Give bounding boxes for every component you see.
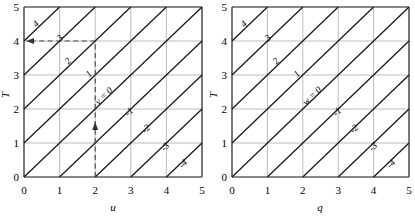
x-axis-title: u <box>110 201 116 213</box>
y-tick-3: 3 <box>14 69 20 81</box>
x-tick-5: 5 <box>406 184 412 196</box>
y-tick-1: 1 <box>14 137 20 149</box>
x-axis-title: q <box>317 201 323 213</box>
x-tick-3: 3 <box>128 184 134 196</box>
left-arrow-icon <box>26 38 34 44</box>
char-label-m4: -4 <box>385 157 398 170</box>
x-tick-2: 2 <box>300 184 306 196</box>
y-axis-right: 5 4 3 2 1 0 T <box>207 1 228 183</box>
char-label-v0: v = 0 <box>93 85 114 106</box>
x-tick-0: 0 <box>21 184 27 196</box>
x-tick-4: 4 <box>371 184 377 196</box>
y-tick-5: 5 <box>222 1 228 13</box>
char-label-m3: -3 <box>367 140 380 153</box>
char-label-2: 2 <box>271 55 282 66</box>
y-tick-2: 2 <box>222 103 228 115</box>
plot-right: 4 3 2 1 w = 0 -1 -2 -3 -4 5 4 3 2 1 0 T … <box>207 0 415 217</box>
y-tick-0: 0 <box>222 171 228 183</box>
x-axis-left: 0 1 2 3 4 5 u <box>21 184 205 213</box>
x-tick-2: 2 <box>92 184 98 196</box>
plot-area-right: 4 3 2 1 w = 0 -1 -2 -3 -4 <box>232 7 409 177</box>
plot-area-left: 4 3 2 1 v = 0 -1 -2 -3 -4 <box>24 7 202 177</box>
y-tick-0: 0 <box>14 171 20 183</box>
x-axis-right: 0 1 2 3 4 5 q <box>229 184 412 213</box>
panel-right: 4 3 2 1 w = 0 -1 -2 -3 -4 5 4 3 2 1 0 T … <box>207 0 414 217</box>
y-tick-1: 1 <box>222 137 228 149</box>
char-label-2: 2 <box>63 55 74 66</box>
panel-left: 4 3 2 1 v = 0 -1 -2 -3 -4 5 4 3 2 1 0 T <box>0 0 207 217</box>
char-label-4: 4 <box>239 18 250 29</box>
y-tick-2: 2 <box>14 103 20 115</box>
char-label-m4: -4 <box>177 157 190 170</box>
x-tick-5: 5 <box>199 184 205 196</box>
x-tick-4: 4 <box>164 184 170 196</box>
y-axis-title: T <box>207 91 219 98</box>
y-tick-4: 4 <box>222 35 228 47</box>
characteristics-figure: 4 3 2 1 v = 0 -1 -2 -3 -4 5 4 3 2 1 0 T <box>0 0 415 217</box>
x-tick-1: 1 <box>57 184 63 196</box>
y-tick-3: 3 <box>222 69 228 81</box>
x-tick-0: 0 <box>229 184 235 196</box>
x-tick-3: 3 <box>335 184 341 196</box>
y-tick-4: 4 <box>14 35 20 47</box>
y-tick-5: 5 <box>14 1 20 13</box>
y-axis-left: 5 4 3 2 1 0 T <box>0 1 20 183</box>
plot-left: 4 3 2 1 v = 0 -1 -2 -3 -4 5 4 3 2 1 0 T <box>0 0 207 217</box>
char-label-m1: -1 <box>331 106 344 119</box>
char-label-m3: -3 <box>159 140 172 153</box>
x-tick-1: 1 <box>265 184 271 196</box>
char-label-4: 4 <box>31 18 42 29</box>
up-arrow-icon <box>92 122 98 130</box>
char-label-w0: w = 0 <box>300 84 323 107</box>
y-axis-title: T <box>0 91 11 98</box>
